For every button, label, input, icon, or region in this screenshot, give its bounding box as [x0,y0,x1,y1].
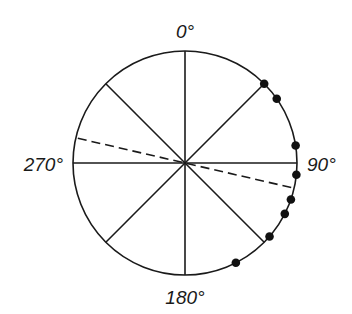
data-point-6 [280,210,289,219]
label-270-deg: 270° [23,154,64,175]
data-point-8 [232,258,241,267]
data-point-3 [291,141,300,150]
data-point-7 [265,232,274,241]
sector-line-315 [106,84,185,163]
data-point-2 [272,94,281,103]
label-0-deg: 0° [176,21,195,42]
data-point-5 [287,195,296,204]
sector-line-225 [106,163,185,242]
circular-diagram: 0° 90° 180° 270° [0,0,352,314]
data-point-4 [292,170,301,179]
label-90-deg: 90° [307,154,336,175]
label-180-deg: 180° [165,287,205,308]
sector-line-45 [185,84,264,163]
data-point-1 [260,80,269,89]
data-points [232,80,301,268]
sector-line-135 [185,163,264,242]
